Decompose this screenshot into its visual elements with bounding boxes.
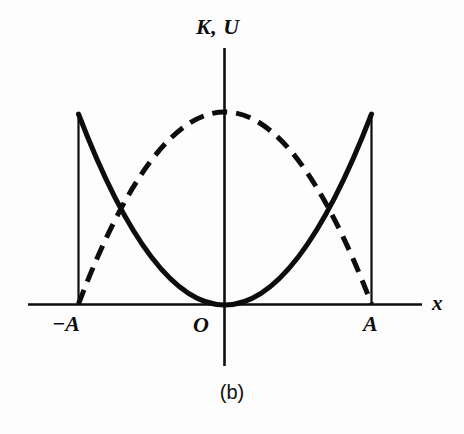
y-axis-label: K, U [196, 14, 240, 40]
figure-caption: (b) [0, 381, 464, 404]
energy-vs-position-figure [0, 0, 464, 434]
origin-label: O [193, 312, 209, 338]
x-axis-label: x [432, 291, 443, 316]
x-tick-label-negative-a: −A [52, 311, 80, 337]
x-tick-label-positive-a: A [363, 311, 378, 337]
